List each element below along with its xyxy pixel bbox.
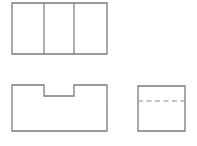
side-view-outline bbox=[138, 86, 185, 131]
top-view-outline bbox=[12, 3, 107, 54]
top-view bbox=[12, 3, 107, 54]
drawing-canvas bbox=[0, 0, 197, 146]
side-view bbox=[138, 86, 185, 131]
front-view bbox=[12, 85, 107, 131]
engineering-drawing-sheet bbox=[0, 0, 197, 146]
front-view-outline-with-notch bbox=[12, 85, 107, 131]
